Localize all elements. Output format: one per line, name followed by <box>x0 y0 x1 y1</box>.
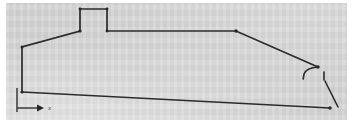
vertex-marker <box>106 30 109 33</box>
vertex-marker <box>21 46 24 49</box>
vertex-marker <box>234 29 237 32</box>
right-eave-hook-path <box>303 67 318 79</box>
x-axis-label: x <box>47 104 52 112</box>
vertex-marker <box>78 29 81 32</box>
x-axis-arrowhead-icon <box>37 105 44 112</box>
vertex-marker <box>316 65 319 68</box>
vertex-marker <box>20 90 23 93</box>
line-drawing-canvas: x <box>0 0 353 126</box>
vertex-marker <box>79 8 82 11</box>
figure-root: x <box>0 0 353 126</box>
vertex-marker <box>106 8 109 11</box>
building-roof-profile-path <box>22 9 318 92</box>
vertex-marker <box>328 106 331 109</box>
right-corner-diagonal-path <box>325 81 338 107</box>
building-baseline-path <box>22 92 330 108</box>
